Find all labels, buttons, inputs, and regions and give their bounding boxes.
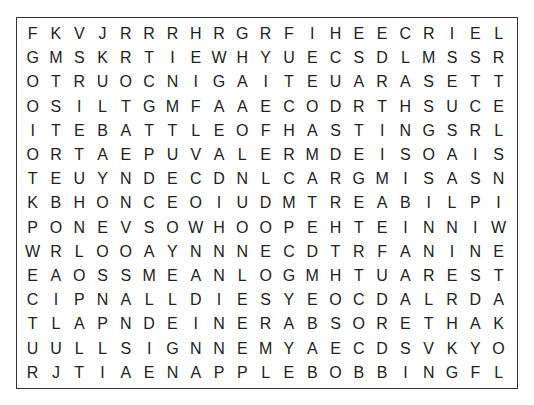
letter-cell[interactable]: E xyxy=(301,288,324,312)
letter-cell[interactable]: H xyxy=(207,216,230,240)
letter-cell[interactable]: T xyxy=(464,70,487,94)
letter-cell[interactable]: I xyxy=(464,216,487,240)
letter-cell[interactable]: O xyxy=(487,336,510,360)
letter-cell[interactable]: L xyxy=(184,119,207,143)
letter-cell[interactable]: E xyxy=(347,22,370,46)
letter-cell[interactable]: S xyxy=(487,143,510,167)
letter-cell[interactable]: A xyxy=(440,167,463,191)
letter-cell[interactable]: N xyxy=(417,216,440,240)
letter-cell[interactable]: E xyxy=(44,167,67,191)
letter-cell[interactable]: A xyxy=(394,240,417,264)
letter-cell[interactable]: N xyxy=(487,167,510,191)
letter-cell[interactable]: A xyxy=(347,70,370,94)
letter-cell[interactable]: O xyxy=(324,361,347,385)
letter-cell[interactable]: R xyxy=(114,46,137,70)
letter-cell[interactable]: R xyxy=(370,312,393,336)
letter-cell[interactable]: A xyxy=(231,95,254,119)
letter-cell[interactable]: C xyxy=(137,191,160,215)
letter-cell[interactable]: I xyxy=(91,361,114,385)
letter-cell[interactable]: R xyxy=(68,70,91,94)
letter-cell[interactable]: A xyxy=(184,361,207,385)
letter-cell[interactable]: O xyxy=(114,240,137,264)
letter-cell[interactable]: T xyxy=(44,119,67,143)
letter-cell[interactable]: M xyxy=(137,264,160,288)
letter-cell[interactable]: A xyxy=(277,312,300,336)
letter-cell[interactable]: S xyxy=(44,95,67,119)
letter-cell[interactable]: I xyxy=(370,143,393,167)
letter-cell[interactable]: M xyxy=(254,336,277,360)
letter-cell[interactable]: U xyxy=(44,336,67,360)
letter-cell[interactable]: K xyxy=(44,22,67,46)
letter-cell[interactable]: E xyxy=(184,46,207,70)
letter-cell[interactable]: B xyxy=(301,312,324,336)
letter-cell[interactable]: Y xyxy=(161,240,184,264)
letter-cell[interactable]: W xyxy=(487,216,510,240)
letter-cell[interactable]: E xyxy=(161,191,184,215)
letter-cell[interactable]: C xyxy=(277,95,300,119)
letter-cell[interactable]: A xyxy=(91,143,114,167)
letter-cell[interactable]: A xyxy=(487,288,510,312)
letter-cell[interactable]: R xyxy=(254,312,277,336)
letter-cell[interactable]: S xyxy=(68,46,91,70)
letter-cell[interactable]: N xyxy=(114,312,137,336)
letter-cell[interactable]: I xyxy=(137,336,160,360)
letter-cell[interactable]: N xyxy=(464,240,487,264)
letter-cell[interactable]: D xyxy=(370,46,393,70)
letter-cell[interactable]: E xyxy=(301,46,324,70)
letter-cell[interactable]: E xyxy=(301,70,324,94)
letter-cell[interactable]: U xyxy=(161,143,184,167)
letter-cell[interactable]: P xyxy=(137,143,160,167)
letter-cell[interactable]: F xyxy=(254,119,277,143)
letter-cell[interactable]: I xyxy=(254,70,277,94)
letter-cell[interactable]: U xyxy=(324,70,347,94)
letter-cell[interactable]: R xyxy=(137,22,160,46)
letter-cell[interactable]: L xyxy=(137,288,160,312)
letter-cell[interactable]: A xyxy=(301,167,324,191)
letter-cell[interactable]: S xyxy=(464,264,487,288)
letter-cell[interactable]: O xyxy=(21,143,44,167)
letter-cell[interactable]: M xyxy=(417,46,440,70)
letter-cell[interactable]: M xyxy=(301,143,324,167)
letter-cell[interactable]: K xyxy=(440,336,463,360)
letter-cell[interactable]: A xyxy=(440,143,463,167)
letter-cell[interactable]: S xyxy=(254,288,277,312)
letter-cell[interactable]: M xyxy=(161,95,184,119)
letter-cell[interactable]: F xyxy=(370,240,393,264)
letter-cell[interactable]: E xyxy=(487,95,510,119)
letter-cell[interactable]: N xyxy=(161,361,184,385)
letter-cell[interactable]: L xyxy=(254,361,277,385)
letter-cell[interactable]: O xyxy=(91,191,114,215)
letter-cell[interactable]: N xyxy=(114,167,137,191)
letter-cell[interactable]: P xyxy=(231,361,254,385)
letter-cell[interactable]: E xyxy=(68,119,91,143)
letter-cell[interactable]: O xyxy=(184,191,207,215)
letter-cell[interactable]: S xyxy=(394,143,417,167)
letter-cell[interactable]: A xyxy=(394,70,417,94)
letter-cell[interactable]: E xyxy=(347,191,370,215)
letter-cell[interactable]: T xyxy=(417,312,440,336)
letter-cell[interactable]: E xyxy=(254,143,277,167)
letter-cell[interactable]: T xyxy=(370,95,393,119)
letter-cell[interactable]: C xyxy=(277,167,300,191)
letter-cell[interactable]: E xyxy=(440,264,463,288)
letter-cell[interactable]: D xyxy=(324,143,347,167)
letter-cell[interactable]: A xyxy=(394,264,417,288)
letter-cell[interactable]: I xyxy=(301,22,324,46)
letter-cell[interactable]: O xyxy=(347,312,370,336)
letter-cell[interactable]: B xyxy=(301,361,324,385)
letter-cell[interactable]: A xyxy=(231,70,254,94)
letter-cell[interactable]: T xyxy=(68,361,91,385)
letter-cell[interactable]: I xyxy=(417,191,440,215)
letter-cell[interactable]: E xyxy=(370,22,393,46)
letter-cell[interactable]: R xyxy=(487,46,510,70)
letter-cell[interactable]: O xyxy=(91,240,114,264)
letter-cell[interactable]: E xyxy=(231,312,254,336)
letter-cell[interactable]: F xyxy=(21,22,44,46)
letter-cell[interactable]: L xyxy=(254,167,277,191)
letter-cell[interactable]: T xyxy=(21,167,44,191)
letter-cell[interactable]: L xyxy=(231,264,254,288)
letter-cell[interactable]: L xyxy=(440,191,463,215)
letter-cell[interactable]: T xyxy=(114,95,137,119)
letter-cell[interactable]: W xyxy=(207,46,230,70)
letter-cell[interactable]: T xyxy=(301,191,324,215)
